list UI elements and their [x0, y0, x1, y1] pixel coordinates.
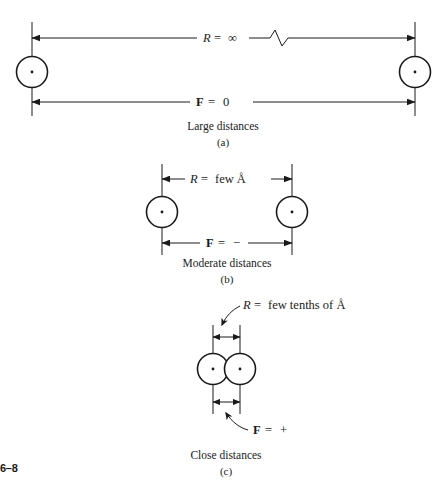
panel-caption-c: Close distances — [190, 449, 262, 461]
atom-right-c — [225, 354, 256, 385]
line-break-squiggle-icon — [263, 30, 295, 46]
figure-root: R = ∞ F = 0 Large distances (a) — [0, 0, 447, 483]
distance-label-eq-b: = — [201, 172, 208, 186]
force-label-val-c: + — [280, 423, 287, 437]
distance-label-eq-a: = — [214, 31, 221, 45]
distance-label-var-a: R — [202, 31, 211, 45]
panel-letter-c: (c) — [220, 465, 233, 478]
distance-label-eq-c: = — [254, 298, 261, 312]
force-leader-curve — [226, 413, 248, 430]
force-label-eq-a: = — [208, 95, 215, 109]
panel-caption-b: Moderate distances — [182, 257, 272, 269]
figure-number: 6–8 — [0, 462, 17, 474]
nucleus-dot-icon — [31, 71, 34, 74]
force-label-var-a: F — [196, 95, 204, 109]
distance-leader-curve — [222, 306, 240, 325]
distance-label-var-c: R — [242, 298, 251, 312]
distance-label-val-c: few tenths of Å — [268, 298, 345, 312]
panel-b: R = few Å F = − Moderate distances (b) — [0, 155, 447, 285]
force-label-var-b: F — [206, 236, 214, 250]
nucleus-dot-icon — [291, 211, 294, 214]
panel-letter-a: (a) — [217, 136, 230, 149]
panel-a: R = ∞ F = 0 Large distances (a) — [0, 0, 447, 148]
panel-c: R = few tenths of Å F = + Close distance… — [0, 292, 447, 478]
nucleus-dot-icon — [239, 368, 242, 371]
nucleus-dot-icon — [414, 71, 417, 74]
panel-letter-b: (b) — [221, 273, 234, 286]
atom-left-b — [147, 197, 178, 228]
nucleus-dot-icon — [161, 211, 164, 214]
distance-label-val-a: ∞ — [228, 31, 237, 45]
panel-caption-a: Large distances — [187, 120, 259, 133]
force-label-var-c: F — [253, 423, 261, 437]
nucleus-dot-icon — [212, 368, 215, 371]
force-label-val-b: − — [233, 236, 240, 250]
atom-right-b — [277, 197, 308, 228]
atom-left-a — [17, 57, 48, 88]
force-label-val-a: 0 — [223, 95, 229, 109]
distance-label-val-b: few Å — [215, 172, 246, 186]
force-label-eq-c: = — [265, 423, 272, 437]
force-label-eq-b: = — [218, 236, 225, 250]
distance-label-var-b: R — [189, 172, 198, 186]
atom-right-a — [400, 57, 431, 88]
